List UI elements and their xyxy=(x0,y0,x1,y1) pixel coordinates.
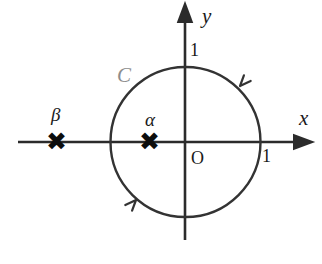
y-axis-tick-label-1: 1 xyxy=(190,41,199,59)
beta-point-marker-icon: ✖ xyxy=(46,129,67,154)
contour-label-C: C xyxy=(117,65,131,86)
figure-container: y x O 1 1 C α ✖ β ✖ xyxy=(0,0,322,264)
upper-right-direction-arrow-icon xyxy=(237,75,251,89)
origin-label: O xyxy=(191,149,204,167)
x-axis-tick-label-1: 1 xyxy=(262,147,271,165)
y-axis-label: y xyxy=(202,6,211,27)
x-axis-label: x xyxy=(299,108,308,129)
alpha-point-marker-icon: ✖ xyxy=(139,129,160,154)
beta-point-label: β xyxy=(51,105,60,124)
